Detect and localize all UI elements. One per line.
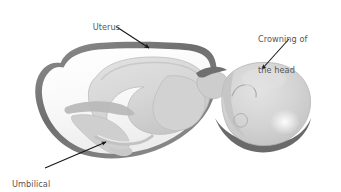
label-uterus: Uterus [82, 12, 120, 43]
label-uterus-text: Uterus [93, 22, 120, 32]
label-umbilical-cord: Umbilical cord [12, 158, 50, 192]
label-umbilical-line-1: Umbilical [12, 179, 50, 189]
label-crowning-of-the-head: Crowning of the head [258, 13, 308, 96]
anatomical-figure: Uterus Crowning of the head Umbilical co… [0, 0, 341, 192]
head-highlight [270, 109, 300, 135]
label-crowning-line-1: Crowning of [258, 34, 308, 44]
label-crowning-line-2: the head [258, 65, 308, 75]
